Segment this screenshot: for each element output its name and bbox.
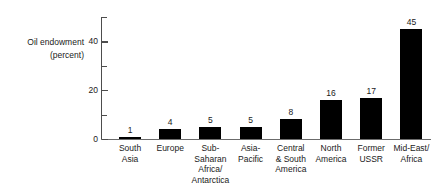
x-axis-label-line: Antarctica — [188, 175, 232, 186]
x-axis-label: Central& SouthAmerica — [269, 143, 313, 175]
bar-group: 8 — [280, 17, 302, 139]
bar-group: 17 — [360, 17, 382, 139]
x-axis-label: NorthAmerica — [309, 143, 353, 164]
x-axis-label-line: South — [108, 143, 152, 154]
x-axis-label-line: Pacific — [229, 154, 273, 165]
x-axis-label: Europe — [148, 143, 192, 154]
plot-area: 02040 14558161745 — [101, 17, 431, 140]
x-axis-label-line: Former — [349, 143, 393, 154]
x-axis-label-line: America — [309, 154, 353, 165]
bar-series: 14558161745 — [101, 17, 431, 140]
y-tick-label-40: 40 — [89, 37, 98, 46]
y-tick-label-0: 0 — [93, 135, 98, 144]
x-axis-label-line: Mid-East/ — [389, 143, 433, 154]
x-axis-label-line: Sub- — [188, 143, 232, 154]
bar-value-label: 4 — [159, 118, 181, 127]
x-axis-label: SouthAsia — [108, 143, 152, 164]
x-axis-label: Sub-SaharanAfrica/Antarctica — [188, 143, 232, 185]
bar — [280, 119, 302, 139]
x-axis-label-line: Europe — [148, 143, 192, 154]
x-axis-label-line: North — [309, 143, 353, 154]
y-tick-label-20: 20 — [89, 86, 98, 95]
bar-group: 1 — [119, 17, 141, 139]
x-axis-label: Asia-Pacific — [229, 143, 273, 164]
bar-value-label: 5 — [199, 116, 221, 125]
x-axis-label-line: Africa/ — [188, 164, 232, 175]
bar — [159, 129, 181, 139]
bar — [119, 137, 141, 139]
bar — [240, 127, 262, 139]
bar — [400, 29, 422, 139]
x-axis-labels: SouthAsiaEuropeSub-SaharanAfrica/Antarct… — [101, 143, 443, 193]
x-axis-label-line: Asia — [108, 154, 152, 165]
bar-value-label: 1 — [119, 126, 141, 135]
bar-value-label: 45 — [400, 18, 422, 27]
x-axis-label-line: America — [269, 164, 313, 175]
x-axis-label-line: & South — [269, 154, 313, 165]
bar-group: 4 — [159, 17, 181, 139]
x-axis-label: Mid-East/Africa — [389, 143, 433, 164]
y-axis-title-line-2: (percent) — [4, 49, 84, 62]
bar-group: 45 — [400, 17, 422, 139]
bar-value-label: 8 — [280, 108, 302, 117]
bar-group: 5 — [199, 17, 221, 139]
bar-value-label: 16 — [320, 89, 342, 98]
oil-endowment-bar-chart: Oil endowment (percent) 02040 1455816174… — [0, 0, 447, 194]
y-axis-title: Oil endowment (percent) — [4, 36, 84, 62]
bar — [320, 100, 342, 139]
bar — [360, 98, 382, 139]
x-axis-label-line: Central — [269, 143, 313, 154]
bar-value-label: 17 — [360, 87, 382, 96]
x-axis-label: FormerUSSR — [349, 143, 393, 164]
x-axis-label-line: Africa — [389, 154, 433, 165]
bar-group: 16 — [320, 17, 342, 139]
x-axis-label-line: Asia- — [229, 143, 273, 154]
bar-value-label: 5 — [240, 116, 262, 125]
bar — [199, 127, 221, 139]
bar-group: 5 — [240, 17, 262, 139]
y-axis-title-line-1: Oil endowment — [27, 37, 84, 47]
x-axis-label-line: USSR — [349, 154, 393, 165]
x-axis-label-line: Saharan — [188, 154, 232, 165]
